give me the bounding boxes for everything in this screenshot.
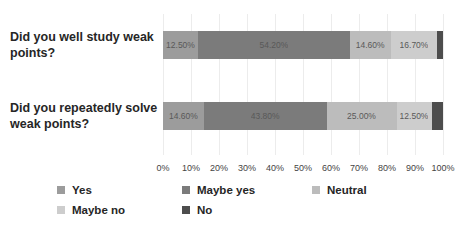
bar-segment-value-label: 12.50%: [400, 111, 429, 121]
x-axis-tick-label: 20%: [210, 163, 228, 173]
bar-segment-value-label: 12.50%: [166, 40, 195, 50]
x-axis-tick-label: 90%: [406, 163, 424, 173]
legend-color-swatch-icon: [57, 206, 65, 214]
stacked-bar-chart: Did you well study weak points? Did you …: [0, 0, 476, 228]
legend-color-swatch-icon: [57, 186, 65, 194]
category-label-well-study: Did you well study weak points?: [10, 30, 160, 61]
legend-color-swatch-icon: [182, 186, 190, 194]
x-axis-tick-label: 70%: [350, 163, 368, 173]
bar-segment-yes: 14.60%: [163, 102, 204, 130]
bar-segment-maybe-yes: 54.20%: [198, 31, 350, 59]
legend-item-yes: Yes: [57, 184, 92, 196]
x-axis-tick-label: 30%: [238, 163, 256, 173]
x-axis-tick-label: 60%: [322, 163, 340, 173]
bar-segment-value-label: 43.80%: [251, 111, 280, 121]
x-axis-tick-label: 0%: [156, 163, 169, 173]
bar-segment-value-label: 54.20%: [259, 40, 288, 50]
category-label-repeatedly-solve: Did you repeatedly solve weak points?: [10, 101, 160, 132]
bar-segment-maybe-no: 16.70%: [391, 31, 438, 59]
legend-item-no: No: [182, 204, 212, 216]
bar-segment-neutral: 25.00%: [327, 102, 397, 130]
legend-item-neutral: Neutral: [312, 184, 367, 196]
bar-segment-maybe-yes: 43.80%: [204, 102, 327, 130]
x-axis-tick-label: 100%: [431, 163, 454, 173]
bar-segment-no: [432, 102, 444, 130]
bar-segment-no: [437, 31, 443, 59]
bar-segment-maybe-no: 12.50%: [397, 102, 432, 130]
x-axis-tick-label: 50%: [294, 163, 312, 173]
legend-color-swatch-icon: [312, 186, 320, 194]
x-axis-tick-label: 10%: [182, 163, 200, 173]
legend-item-maybe-no: Maybe no: [57, 204, 125, 216]
bar-segment-neutral: 14.60%: [350, 31, 391, 59]
bar-segment-value-label: 14.60%: [356, 40, 385, 50]
legend-label: No: [197, 204, 212, 216]
legend-label: Maybe no: [72, 204, 125, 216]
legend-label: Neutral: [327, 184, 367, 196]
legend-label: Yes: [72, 184, 92, 196]
bar-segment-yes: 12.50%: [163, 31, 198, 59]
x-axis-tick-label: 40%: [266, 163, 284, 173]
bar-segment-value-label: 14.60%: [169, 111, 198, 121]
legend-label: Maybe yes: [197, 184, 255, 196]
legend-item-maybe-yes: Maybe yes: [182, 184, 255, 196]
bar-segment-value-label: 25.00%: [347, 111, 376, 121]
bar-segment-value-label: 16.70%: [400, 40, 429, 50]
x-axis-tick-label: 80%: [378, 163, 396, 173]
legend-color-swatch-icon: [182, 206, 190, 214]
